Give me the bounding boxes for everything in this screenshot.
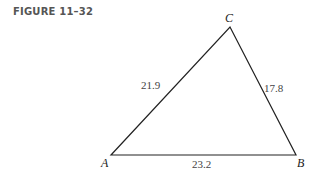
triangle-diagram: A B C 21.9 17.8 23.2 xyxy=(0,0,318,179)
vertex-label-c: C xyxy=(225,11,234,25)
side-label-ab: 23.2 xyxy=(192,158,211,170)
vertex-label-b: B xyxy=(297,156,305,170)
vertex-label-a: A xyxy=(100,156,109,170)
side-label-cb: 17.8 xyxy=(264,82,284,94)
side-label-ac: 21.9 xyxy=(141,79,161,91)
figure: FIGURE 11–32 A B C 21.9 17.8 23.2 xyxy=(0,0,318,179)
